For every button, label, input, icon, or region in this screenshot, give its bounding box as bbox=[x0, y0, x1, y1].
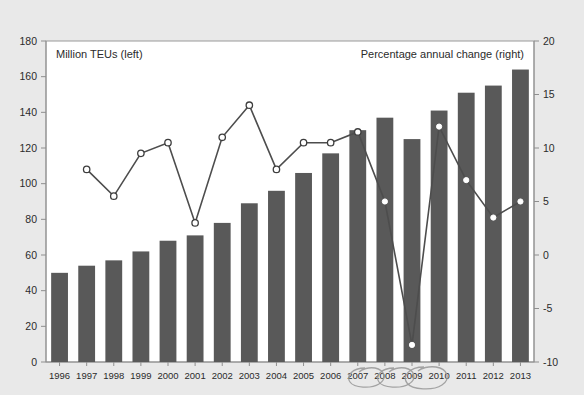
line-marker bbox=[491, 215, 496, 220]
line-marker bbox=[518, 199, 523, 204]
bar bbox=[78, 266, 95, 362]
line-marker bbox=[165, 139, 171, 145]
bar bbox=[295, 173, 312, 362]
x-axis-tick-label: 2013 bbox=[510, 370, 531, 381]
bar bbox=[512, 70, 529, 362]
bar bbox=[349, 130, 366, 362]
left-axis-caption: Million TEUs (left) bbox=[56, 48, 143, 60]
y-axis-left-tick-label: 80 bbox=[25, 213, 37, 225]
y-axis-left-tick-label: 60 bbox=[25, 249, 37, 261]
x-axis-tick-label: 1998 bbox=[103, 370, 124, 381]
x-axis-tick-label: 2000 bbox=[157, 370, 178, 381]
bar bbox=[241, 203, 258, 362]
line-marker bbox=[437, 124, 442, 129]
x-axis-tick-label: 2002 bbox=[212, 370, 233, 381]
bar bbox=[376, 118, 393, 362]
bar bbox=[485, 86, 502, 362]
x-axis-tick-label: 2011 bbox=[456, 370, 476, 381]
line-marker bbox=[327, 139, 333, 145]
y-axis-left-tick-label: 0 bbox=[31, 356, 37, 368]
line-marker bbox=[300, 139, 306, 145]
x-axis-tick-label: 2005 bbox=[293, 370, 314, 381]
y-axis-right-tick-label: 0 bbox=[543, 249, 549, 261]
y-axis-right-tick-label: 10 bbox=[543, 142, 555, 154]
y-axis-left-tick-label: 120 bbox=[19, 142, 37, 154]
chart-canvas: 020406080100120140160180 -10-505101520 1… bbox=[0, 0, 584, 395]
x-axis-tick-label: 2012 bbox=[483, 370, 504, 381]
bar bbox=[105, 260, 122, 362]
bar bbox=[268, 191, 285, 362]
chart-figure: 020406080100120140160180 -10-505101520 1… bbox=[0, 0, 584, 395]
x-axis-tick-label: 2003 bbox=[239, 370, 260, 381]
y-axis-right-tick-label: -5 bbox=[543, 302, 552, 314]
x-axis-tick-label: 2001 bbox=[185, 370, 206, 381]
x-axis-tick-label: 2007 bbox=[347, 370, 368, 381]
y-axis-left-tick-label: 180 bbox=[19, 35, 37, 47]
line-marker bbox=[219, 134, 225, 140]
line-marker bbox=[409, 342, 414, 347]
bar bbox=[187, 235, 204, 362]
x-axis-tick-label: 1997 bbox=[76, 370, 97, 381]
bar bbox=[51, 273, 68, 362]
y-axis-right-tick-label: -10 bbox=[543, 356, 558, 368]
y-axis-left-tick-label: 100 bbox=[19, 177, 37, 189]
x-axis-tick-label: 1999 bbox=[130, 370, 151, 381]
y-axis-left-tick-label: 160 bbox=[19, 70, 37, 82]
bar bbox=[431, 111, 448, 362]
bar bbox=[132, 251, 149, 362]
bar bbox=[214, 223, 231, 362]
bar bbox=[322, 153, 339, 362]
y-axis-left-tick-label: 40 bbox=[25, 284, 37, 296]
right-axis-caption: Percentage annual change (right) bbox=[361, 48, 524, 60]
bar bbox=[458, 93, 475, 362]
line-marker bbox=[246, 102, 252, 108]
line-marker bbox=[111, 193, 117, 199]
line-marker bbox=[355, 129, 361, 135]
y-axis-right-tick-label: 5 bbox=[543, 195, 549, 207]
bar bbox=[160, 241, 177, 362]
line-marker bbox=[83, 166, 89, 172]
x-axis-tick-label: 2004 bbox=[266, 370, 287, 381]
bar bbox=[404, 139, 421, 362]
line-marker bbox=[382, 199, 387, 204]
y-axis-left-tick-label: 140 bbox=[19, 106, 37, 118]
x-axis-tick-label: 2006 bbox=[320, 370, 341, 381]
y-axis-right-tick-label: 15 bbox=[543, 88, 555, 100]
line-marker bbox=[138, 150, 144, 156]
y-axis-left-tick-label: 20 bbox=[25, 320, 37, 332]
x-axis-tick-label: 1996 bbox=[49, 370, 70, 381]
line-marker bbox=[192, 220, 198, 226]
line-marker bbox=[273, 166, 279, 172]
y-axis-right-tick-label: 20 bbox=[543, 35, 555, 47]
line-marker bbox=[464, 178, 469, 183]
